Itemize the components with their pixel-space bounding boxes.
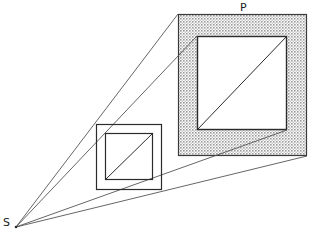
- source-point-marker: [15, 226, 18, 229]
- ray-to-inner-top-left: [16, 14, 178, 227]
- ray-to-outer-top-left: [16, 36, 197, 227]
- projection-diagram: S P: [0, 0, 314, 238]
- small-square-diagonal: [105, 133, 153, 180]
- shaded-plane-frame: [178, 14, 307, 156]
- ray-to-inner-bottom-right: [16, 130, 287, 227]
- source-label: S: [3, 216, 10, 229]
- plane-label: P: [240, 1, 247, 14]
